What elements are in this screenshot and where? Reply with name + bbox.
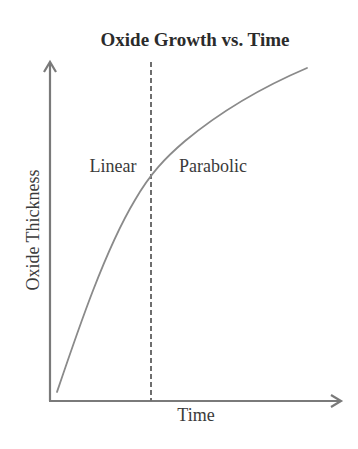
x-axis-label: Time (177, 405, 214, 425)
chart-title: Oxide Growth vs. Time (101, 29, 290, 50)
oxide-growth-chart: Oxide Growth vs. Time Linear Parabolic T… (0, 0, 358, 449)
oxide-growth-curve (57, 68, 307, 392)
linear-region-label: Linear (90, 156, 137, 176)
parabolic-region-label: Parabolic (179, 156, 247, 176)
y-axis-label: Oxide Thickness (23, 169, 43, 290)
y-axis (44, 62, 56, 401)
